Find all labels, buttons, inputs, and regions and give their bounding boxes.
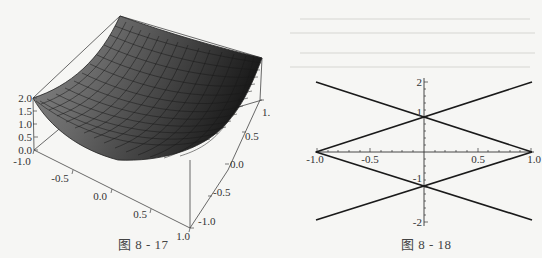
x-tick-label: -0.5 xyxy=(51,172,69,184)
figure-line-plot: -1.0 -0.5 0.5 1.0 2 1 -1 -2 图 8 - 18 xyxy=(270,0,542,258)
y-tick-label: 1.0 xyxy=(262,106,270,118)
figure-caption: 图 8 - 17 xyxy=(118,234,169,253)
x-axis-ticks xyxy=(33,150,190,232)
y-tick-label: 0.0 xyxy=(230,158,244,170)
x-tick-label: 0.5 xyxy=(471,153,485,165)
figure-3d-surface: 2.0 1.5 1.0 0.5 0.0 -1.0 -0.5 0.0 0.5 1.… xyxy=(0,0,270,258)
x-tick-label: -0.5 xyxy=(361,153,379,165)
figure-caption: 图 8 - 18 xyxy=(401,234,452,253)
y-tick-label: 0.5 xyxy=(245,130,259,142)
surface-plot: 2.0 1.5 1.0 0.5 0.0 -1.0 -0.5 0.0 0.5 1.… xyxy=(0,0,270,258)
x-tick-label: 0.0 xyxy=(93,190,107,202)
axes xyxy=(315,78,534,226)
z-tick-label: 2.0 xyxy=(18,92,32,104)
z-tick-label: 1.0 xyxy=(18,118,32,130)
y-tick-label: -0.5 xyxy=(213,186,231,198)
x-tick-label: 1.0 xyxy=(176,230,190,242)
z-tick-label: 0.5 xyxy=(18,131,32,143)
y-tick-label: 2 xyxy=(417,76,423,88)
y-tick-label: -1.0 xyxy=(198,215,216,227)
y-tick-label: -2 xyxy=(413,216,422,228)
z-axis-labels: 2.0 1.5 1.0 0.5 0.0 xyxy=(18,92,32,156)
x-tick-label: 0.5 xyxy=(133,208,147,220)
line-plot: -1.0 -0.5 0.5 1.0 2 1 -1 -2 xyxy=(270,0,542,258)
z-tick-label: 1.5 xyxy=(18,105,32,117)
x-axis-labels: -1.0 -0.5 0.0 0.5 1.0 xyxy=(13,155,190,242)
x-tick-label: -1.0 xyxy=(13,155,31,167)
y-tick-label: 1 xyxy=(417,106,423,118)
y-tick-label: -1 xyxy=(413,172,422,184)
x-tick-label: 1.0 xyxy=(527,153,541,165)
x-tick-label: -1.0 xyxy=(306,153,324,165)
